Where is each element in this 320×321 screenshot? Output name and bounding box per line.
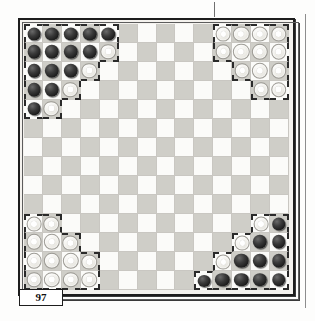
dark-piece[interactable] bbox=[28, 28, 41, 41]
board-cell[interactable] bbox=[270, 119, 289, 138]
board-cell[interactable] bbox=[81, 176, 100, 195]
board-cell[interactable] bbox=[119, 271, 138, 290]
board-cell[interactable] bbox=[119, 195, 138, 214]
board-cell[interactable] bbox=[24, 271, 43, 290]
board-cell[interactable] bbox=[213, 271, 232, 290]
dark-piece[interactable] bbox=[64, 64, 78, 78]
board-cell[interactable] bbox=[157, 43, 176, 62]
board-cell[interactable] bbox=[157, 214, 176, 233]
board-cell[interactable] bbox=[251, 62, 270, 81]
dark-piece[interactable] bbox=[215, 273, 229, 287]
board-cell[interactable] bbox=[270, 24, 289, 43]
dark-piece[interactable] bbox=[45, 83, 59, 97]
board-cell[interactable] bbox=[194, 24, 213, 43]
board-cell[interactable] bbox=[232, 138, 251, 157]
board-cell[interactable] bbox=[157, 271, 176, 290]
dark-piece[interactable] bbox=[28, 83, 41, 97]
board-cell[interactable] bbox=[194, 62, 213, 81]
board-cell[interactable] bbox=[251, 195, 270, 214]
board-cell[interactable] bbox=[24, 138, 43, 157]
board-cell[interactable] bbox=[138, 100, 157, 119]
board-cell[interactable] bbox=[24, 157, 43, 176]
board-cell[interactable] bbox=[24, 62, 43, 81]
board-cell[interactable] bbox=[62, 195, 81, 214]
light-piece[interactable] bbox=[44, 272, 60, 288]
board-cell[interactable] bbox=[213, 233, 232, 252]
board-cell[interactable] bbox=[232, 195, 251, 214]
board-cell[interactable] bbox=[62, 100, 81, 119]
board-cell[interactable] bbox=[194, 176, 213, 195]
light-piece[interactable] bbox=[27, 234, 42, 250]
board-cell[interactable] bbox=[232, 81, 251, 100]
board-cell[interactable] bbox=[43, 271, 62, 290]
light-piece[interactable] bbox=[271, 82, 287, 98]
board-cell[interactable] bbox=[194, 157, 213, 176]
board-cell[interactable] bbox=[157, 252, 176, 271]
board-cell[interactable] bbox=[175, 81, 194, 100]
board-cell[interactable] bbox=[251, 176, 270, 195]
board-cell[interactable] bbox=[119, 81, 138, 100]
board-cell[interactable] bbox=[100, 214, 119, 233]
board-cell[interactable] bbox=[100, 100, 119, 119]
board-cell[interactable] bbox=[175, 195, 194, 214]
dark-piece[interactable] bbox=[28, 45, 41, 59]
dark-piece[interactable] bbox=[272, 235, 286, 249]
board-cell[interactable] bbox=[24, 119, 43, 138]
board-cell[interactable] bbox=[81, 138, 100, 157]
board-cell[interactable] bbox=[43, 119, 62, 138]
light-piece[interactable] bbox=[216, 255, 231, 270]
board-cell[interactable] bbox=[62, 157, 81, 176]
dark-piece[interactable] bbox=[64, 45, 78, 59]
light-piece[interactable] bbox=[271, 44, 287, 60]
board-cell[interactable] bbox=[43, 62, 62, 81]
board-cell[interactable] bbox=[138, 271, 157, 290]
board-cell[interactable] bbox=[100, 119, 119, 138]
board-cell[interactable] bbox=[251, 119, 270, 138]
board-cell[interactable] bbox=[251, 100, 270, 119]
board-cell[interactable] bbox=[175, 271, 194, 290]
board-cell[interactable] bbox=[100, 252, 119, 271]
board-cell[interactable] bbox=[100, 157, 119, 176]
light-piece[interactable] bbox=[27, 272, 42, 288]
board-cell[interactable] bbox=[175, 214, 194, 233]
board-cell[interactable] bbox=[175, 119, 194, 138]
board-cell[interactable] bbox=[138, 252, 157, 271]
board-cell[interactable] bbox=[81, 252, 100, 271]
board-cell[interactable] bbox=[270, 81, 289, 100]
board-cell[interactable] bbox=[43, 195, 62, 214]
dark-piece[interactable] bbox=[45, 45, 59, 59]
light-piece[interactable] bbox=[254, 82, 269, 98]
light-piece[interactable] bbox=[27, 253, 42, 269]
board-cell[interactable] bbox=[138, 176, 157, 195]
dark-piece[interactable] bbox=[253, 273, 267, 287]
board-cell[interactable] bbox=[194, 214, 213, 233]
board-cell[interactable] bbox=[270, 138, 289, 157]
board-cell[interactable] bbox=[175, 62, 194, 81]
board-cell[interactable] bbox=[251, 138, 270, 157]
board-cell[interactable] bbox=[24, 195, 43, 214]
dark-piece[interactable] bbox=[28, 102, 41, 116]
game-board-grid[interactable] bbox=[24, 24, 289, 290]
board-cell[interactable] bbox=[251, 81, 270, 100]
light-piece[interactable] bbox=[63, 272, 79, 288]
board-cell[interactable] bbox=[251, 157, 270, 176]
board-cell[interactable] bbox=[81, 81, 100, 100]
light-piece[interactable] bbox=[44, 253, 60, 269]
board-cell[interactable] bbox=[194, 233, 213, 252]
light-piece[interactable] bbox=[81, 272, 97, 288]
board-cell[interactable] bbox=[213, 157, 232, 176]
board-cell[interactable] bbox=[24, 176, 43, 195]
board-cell[interactable] bbox=[43, 100, 62, 119]
board-cell[interactable] bbox=[232, 100, 251, 119]
board-cell[interactable] bbox=[251, 233, 270, 252]
board-cell[interactable] bbox=[213, 214, 232, 233]
board-cell[interactable] bbox=[138, 157, 157, 176]
board-cell[interactable] bbox=[213, 252, 232, 271]
board-cell[interactable] bbox=[138, 24, 157, 43]
light-piece[interactable] bbox=[81, 63, 97, 79]
board-cell[interactable] bbox=[119, 138, 138, 157]
board-cell[interactable] bbox=[81, 119, 100, 138]
light-piece[interactable] bbox=[81, 255, 97, 270]
board-cell[interactable] bbox=[175, 176, 194, 195]
light-piece[interactable] bbox=[254, 217, 269, 232]
